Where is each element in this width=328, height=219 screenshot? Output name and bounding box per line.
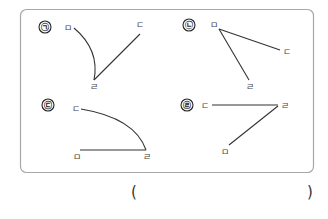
point-label: ㄷ — [72, 104, 80, 114]
figures-diagram: ㉠ ㅁ ㄷ ㄹ ㉡ ㅁ ㄷ ㄹ ㉢ ㄷ ㅁ ㄹ ㉣ ㄷ ㄹ ㅁ — [0, 0, 328, 219]
answer-blank-open: ( — [131, 183, 137, 201]
point-label: ㅁ — [221, 147, 229, 157]
point-label: ㄷ — [201, 101, 209, 111]
vertex-label: ㅁ — [210, 20, 218, 30]
point-label: ㄷ — [136, 20, 144, 30]
marker-4: ㉣ — [183, 100, 191, 110]
figures-frame — [21, 10, 314, 173]
point-label: ㅁ — [73, 152, 81, 162]
marker-1: ㉠ — [41, 22, 49, 32]
point-label: ㄷ — [283, 47, 291, 57]
vertex-label: ㄹ — [281, 101, 289, 111]
vertex-label: ㄹ — [143, 152, 151, 162]
marker-3: ㉢ — [44, 100, 52, 110]
vertex-label: ㄹ — [90, 82, 98, 92]
point-label: ㄹ — [246, 82, 254, 92]
point-label: ㅁ — [64, 23, 72, 33]
marker-2: ㉡ — [185, 20, 193, 30]
answer-blank-close: ) — [307, 183, 313, 201]
